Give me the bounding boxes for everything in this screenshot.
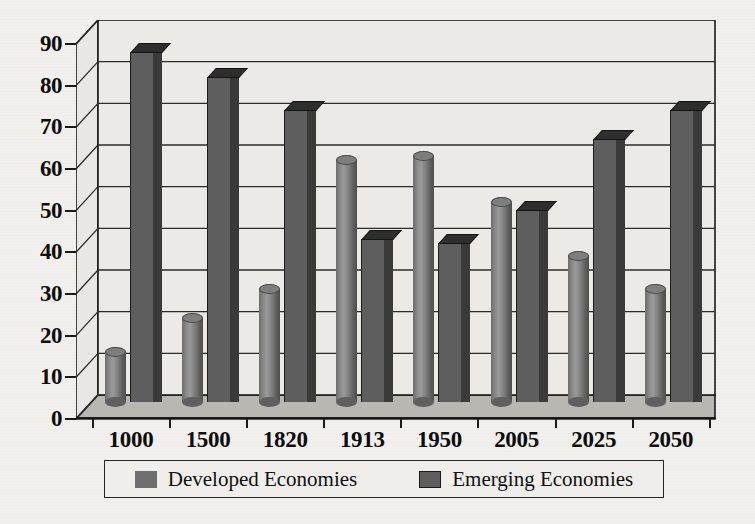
y-tick-mark <box>65 376 76 378</box>
bar-emerging <box>438 243 461 401</box>
y-tick-mark <box>65 251 76 253</box>
y-tick-mark <box>65 126 76 128</box>
x-tick-mark <box>246 417 248 428</box>
bar-developed-cap <box>645 284 666 294</box>
bar-developed <box>182 318 203 401</box>
y-tick-mark <box>65 43 76 45</box>
bar-developed-cap <box>413 151 434 161</box>
legend-label-developed: Developed Economies <box>168 467 358 492</box>
y-tick-mark <box>65 85 76 87</box>
x-tick-mark <box>477 417 479 428</box>
bar-emerging-cap <box>130 43 171 53</box>
bar-developed-base <box>259 397 280 407</box>
x-tick-mark <box>400 417 402 428</box>
bar-emerging <box>284 110 307 402</box>
y-tick-mark <box>65 335 76 337</box>
bar-emerging-side <box>539 201 548 402</box>
bar-emerging <box>361 239 384 402</box>
bar-developed-cap <box>259 284 280 294</box>
bar-developed <box>413 156 434 402</box>
x-tick-label: 1913 <box>340 427 385 453</box>
bar-developed-cap <box>336 155 357 165</box>
x-tick-mark <box>709 417 711 428</box>
bar-developed-base <box>491 397 512 407</box>
y-tick-label: 30 <box>40 281 62 307</box>
y-tick-label: 20 <box>40 323 62 349</box>
bar-developed <box>568 256 589 402</box>
bar-emerging-side <box>461 234 470 401</box>
x-tick-mark <box>323 417 325 428</box>
bar-developed <box>491 202 512 402</box>
bar-emerging-cap <box>438 234 479 244</box>
bar-developed-cap <box>105 347 126 357</box>
chart-legend: Developed Economies Emerging Economies <box>104 460 664 498</box>
x-tick-label: 2025 <box>571 427 616 453</box>
plot-area <box>76 20 716 420</box>
bar-emerging-side <box>693 101 702 402</box>
x-axis: 10001500182019131950200520252050 <box>76 421 716 455</box>
bar-developed-base <box>645 397 666 407</box>
y-tick-label: 40 <box>40 239 62 265</box>
bar-developed-base <box>568 397 589 407</box>
x-axis-line <box>76 417 716 419</box>
legend-item-emerging: Emerging Economies <box>419 467 633 492</box>
bar-developed <box>336 160 357 402</box>
x-tick-mark <box>555 417 557 428</box>
legend-label-emerging: Emerging Economies <box>452 467 633 492</box>
bar-developed-cap <box>182 313 203 323</box>
y-tick-label: 60 <box>40 156 62 182</box>
bar-emerging-cap <box>593 130 634 140</box>
x-tick-label: 1000 <box>109 427 154 453</box>
bar-emerging <box>670 110 693 402</box>
bar-emerging-side <box>230 68 239 402</box>
x-tick-label: 1500 <box>186 427 231 453</box>
bar-emerging <box>130 52 153 402</box>
x-tick-mark <box>632 417 634 428</box>
y-tick-mark <box>65 418 76 420</box>
y-tick-label: 70 <box>40 114 62 140</box>
bar-emerging <box>593 139 616 402</box>
y-tick-label: 80 <box>40 73 62 99</box>
bar-emerging-cap <box>516 201 557 211</box>
y-tick-mark <box>65 168 76 170</box>
legend-item-developed: Developed Economies <box>135 467 358 492</box>
bar-emerging-side <box>384 230 393 402</box>
bar-emerging-side <box>153 43 162 402</box>
bar-emerging <box>207 77 230 402</box>
y-tick-label: 0 <box>51 406 62 432</box>
bar-developed-base <box>182 397 203 407</box>
bar-developed-base <box>336 397 357 407</box>
x-tick-mark <box>92 417 94 428</box>
y-tick-mark <box>65 293 76 295</box>
bars-layer <box>76 20 716 420</box>
bar-emerging-cap <box>207 68 248 78</box>
x-tick-mark <box>169 417 171 428</box>
bar-developed-base <box>413 397 434 407</box>
x-tick-label: 1950 <box>417 427 462 453</box>
bar-emerging-cap <box>670 101 711 111</box>
x-tick-label: 1820 <box>263 427 308 453</box>
bar-developed <box>645 289 666 402</box>
bar-emerging-side <box>616 130 625 402</box>
y-tick-label: 10 <box>40 364 62 390</box>
bar-developed-cap <box>568 251 589 261</box>
developed-swatch-icon <box>135 471 157 488</box>
x-tick-label: 2005 <box>494 427 539 453</box>
bar-emerging-cap <box>284 101 325 111</box>
y-tick-mark <box>65 210 76 212</box>
bar-emerging <box>516 210 539 402</box>
x-tick-label: 2050 <box>648 427 693 453</box>
chart-page: 0102030405060708090 10001500182019131950… <box>0 0 755 524</box>
y-tick-label: 90 <box>40 31 62 57</box>
y-tick-label: 50 <box>40 198 62 224</box>
bar-developed <box>259 289 280 402</box>
bar-developed <box>105 352 126 402</box>
bar-developed-base <box>105 397 126 407</box>
emerging-swatch-icon <box>419 471 441 488</box>
bar-emerging-side <box>307 101 316 402</box>
bar-emerging-cap <box>361 230 402 240</box>
bar-developed-cap <box>491 197 512 207</box>
y-axis: 0102030405060708090 <box>18 20 76 412</box>
